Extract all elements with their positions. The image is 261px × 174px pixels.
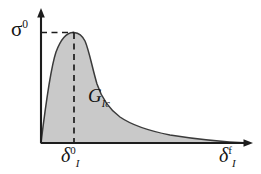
g-subscript: Ic (102, 98, 110, 109)
g-symbol: G (88, 85, 102, 106)
fracture-energy-area (41, 32, 249, 143)
x-axis-label-final-separation: δfI (219, 145, 236, 165)
x-axis-arrowhead (244, 139, 254, 147)
y-axis-arrowhead (37, 8, 45, 18)
sigma-superscript: 0 (22, 18, 28, 30)
delta-symbol: δ (219, 144, 228, 166)
traction-separation-figure: σ0 δ0I δfI GIc (0, 0, 261, 174)
y-axis-label-peak-stress: σ0 (11, 19, 28, 40)
delta-onset-superscript: 0 (70, 144, 76, 156)
delta-final-superscript: f (228, 144, 232, 156)
delta-onset-subscript: I (76, 157, 80, 169)
delta-final-subscript: I (232, 157, 236, 169)
sigma-symbol: σ (11, 17, 22, 41)
delta-symbol: δ (61, 144, 70, 166)
fracture-energy-label: GIc (88, 86, 110, 105)
x-axis-label-onset-separation: δ0I (61, 145, 79, 165)
